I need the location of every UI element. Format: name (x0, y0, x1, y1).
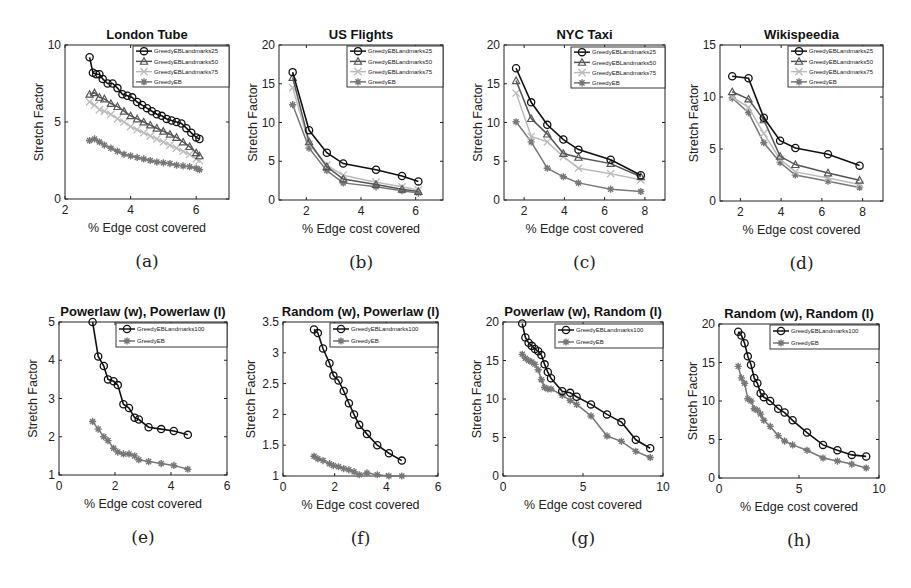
figure: London Tube2460510% Edge cost coveredStr… (0, 0, 911, 588)
series-GreedyEBLandmarks50 (512, 77, 644, 180)
y-tick-label: 0 (54, 192, 61, 206)
legend-entry: GreedyEBLandmarks25 (154, 48, 219, 54)
legend-entry: GreedyEBLandmarks25 (368, 48, 433, 54)
y-tick-label: 4 (48, 353, 55, 367)
x-tick-label: 0 (56, 479, 63, 493)
y-tick-label: 20 (262, 38, 276, 52)
x-tick-label: 6 (819, 205, 826, 219)
y-axis-label: Stretch Factor (26, 359, 40, 438)
x-tick-label: 0 (500, 480, 507, 494)
x-axis-label: % Edge cost covered (84, 497, 202, 511)
y-tick-label: 20 (487, 38, 501, 52)
legend-entry: GreedyEB (368, 79, 396, 85)
x-tick-label: 2 (62, 203, 69, 217)
y-tick-label: 3 (48, 392, 55, 406)
y-axis-label: Stretch Factor (470, 360, 484, 439)
legend-entry: GreedyEB (809, 79, 837, 85)
y-tick-label: 15 (703, 38, 717, 52)
x-axis-label: % Edge cost covered (742, 223, 860, 237)
y-tick-label: 20 (702, 317, 716, 331)
panel-title: Random (w), Powerlaw (l) (282, 304, 439, 319)
x-tick-label: 6 (224, 479, 231, 493)
x-tick-label: 4 (778, 205, 785, 219)
x-tick-label: 0 (280, 480, 287, 494)
y-tick-label: 3 (272, 346, 279, 360)
y-tick-label: 0 (268, 193, 275, 207)
x-tick-label: 6 (601, 204, 608, 218)
y-axis-label: Stretch Factor (244, 360, 258, 439)
legend-entry: GreedyEB (351, 338, 379, 344)
x-tick-label: 10 (656, 480, 670, 494)
panel-title: London Tube (106, 27, 187, 42)
legend-entry: GreedyEBLandmarks50 (154, 59, 219, 65)
x-tick-label: 4 (168, 479, 175, 493)
legend: GreedyEBLandmarks25GreedyEBLandmarks50Gr… (347, 46, 443, 87)
x-tick-label: 2 (303, 204, 310, 218)
x-tick-label: 2 (331, 480, 338, 494)
x-axis-label: % Edge cost covered (525, 222, 643, 236)
chart-panel-b: US Flights24605101520% Edge cost covered… (246, 27, 443, 272)
legend-entry: GreedyEB (791, 340, 819, 346)
legend: GreedyEBLandmarks25GreedyEBLandmarks50Gr… (571, 47, 665, 88)
panel-caption: (d) (789, 253, 813, 273)
legend-entry: GreedyEBLandmarks50 (809, 59, 874, 65)
panel-caption: (b) (349, 252, 373, 272)
panel-caption: (a) (135, 251, 158, 271)
y-tick-label: 10 (703, 90, 717, 104)
y-tick-label: 10 (487, 116, 501, 130)
series-GreedyEB (89, 418, 191, 473)
y-tick-label: 5 (492, 431, 499, 445)
chart-panel-e: Powerlaw (w), Powerlaw (l)024612345% Edg… (26, 304, 231, 547)
legend-entry: GreedyEBLandmarks100 (137, 326, 205, 332)
y-tick-label: 10 (48, 38, 62, 52)
legend-entry: GreedyEBLandmarks50 (592, 60, 657, 66)
x-tick-label: 5 (796, 482, 803, 496)
series-GreedyEB (289, 101, 422, 197)
y-tick-label: 1.5 (262, 438, 279, 452)
chart-panel-a: London Tube2460510% Edge cost coveredStr… (32, 27, 229, 271)
legend-entry: GreedyEBLandmarks100 (791, 328, 859, 334)
x-tick-label: 6 (193, 203, 200, 217)
chart-panel-f: Random (w), Powerlaw (l)024611.522.533.5… (244, 304, 442, 548)
series-GreedyEB (512, 118, 644, 195)
y-tick-label: 20 (486, 315, 500, 329)
y-tick-label: 5 (709, 142, 716, 156)
legend-entry: GreedyEBLandmarks25 (809, 48, 874, 54)
legend-entry: GreedyEBLandmarks75 (809, 69, 874, 75)
y-tick-label: 0 (708, 471, 715, 485)
legend-entry: GreedyEBLandmarks75 (592, 70, 657, 76)
legend: GreedyEBLandmarks100GreedyEB (116, 323, 227, 347)
x-axis-label: % Edge cost covered (524, 498, 642, 512)
x-tick-label: 6 (435, 480, 442, 494)
y-axis-label: Stretch Factor (686, 362, 700, 441)
series-GreedyEB (519, 351, 654, 461)
y-tick-label: 15 (262, 77, 276, 91)
x-axis-label: % Edge cost covered (740, 500, 858, 514)
x-tick-label: 10 (872, 482, 886, 496)
panel-caption: (c) (573, 252, 596, 272)
legend: GreedyEBLandmarks100GreedyEB (555, 324, 663, 348)
chart-panel-d: Wikispeedia2468051015% Edge cost covered… (687, 27, 883, 273)
y-tick-label: 5 (268, 154, 275, 168)
y-axis-label: Stretch Factor (687, 84, 701, 163)
y-axis-label: Stretch Factor (471, 83, 485, 162)
legend: GreedyEBLandmarks100GreedyEB (770, 325, 879, 349)
panel-title: Random (w), Random (l) (724, 306, 874, 321)
x-tick-label: 4 (383, 480, 390, 494)
x-tick-label: 2 (112, 479, 119, 493)
y-tick-label: 0 (492, 469, 499, 483)
y-tick-label: 10 (486, 392, 500, 406)
y-axis-label: Stretch Factor (246, 83, 260, 162)
y-tick-label: 5 (48, 315, 55, 329)
panel-title: US Flights (329, 27, 393, 42)
y-tick-label: 5 (493, 154, 500, 168)
y-tick-label: 5 (54, 115, 61, 129)
panel-caption: (f) (351, 528, 371, 548)
legend-entry: GreedyEB (154, 79, 182, 85)
y-tick-label: 15 (702, 356, 716, 370)
panel-title: Wikispeedia (764, 27, 840, 42)
y-tick-label: 2 (272, 407, 279, 421)
legend-entry: GreedyEBLandmarks100 (576, 327, 644, 333)
x-tick-label: 4 (561, 204, 568, 218)
x-axis-label: % Edge cost covered (301, 498, 419, 512)
